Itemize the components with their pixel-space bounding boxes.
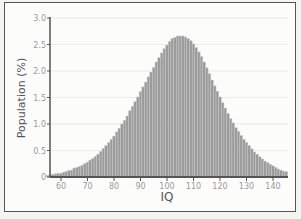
histogram-bar [174, 38, 177, 177]
histogram-bar [158, 58, 161, 177]
histogram-bar [187, 39, 190, 177]
histogram-bar [97, 154, 100, 177]
y-tick-label: 2.0 [33, 67, 46, 76]
histogram-bar [227, 113, 230, 177]
y-axis-label: Population (%) [15, 58, 28, 138]
histogram-bar [256, 154, 259, 177]
histogram-bar [115, 132, 118, 177]
histogram-bar [184, 37, 187, 177]
histogram-bar [237, 131, 240, 177]
histogram-bar [86, 162, 89, 177]
histogram-bar [232, 123, 235, 177]
histogram-bar [76, 167, 79, 177]
histogram-bars [46, 36, 287, 177]
histogram-bar [160, 53, 163, 177]
y-tick-label: 0.5 [33, 147, 46, 156]
histogram-bar [261, 159, 264, 177]
histogram-bar [78, 166, 81, 177]
histogram-bar [150, 72, 153, 177]
histogram-bar [102, 148, 105, 177]
histogram-bar [171, 39, 174, 177]
histogram-bar [70, 170, 73, 177]
histogram-bar [129, 111, 132, 177]
histogram-bar [258, 157, 261, 177]
histogram-bar [211, 80, 214, 177]
x-tick-label: 70 [82, 182, 92, 191]
histogram-bar [81, 165, 84, 177]
histogram-bar [107, 143, 110, 177]
histogram-bar [213, 86, 216, 177]
histogram-bar [118, 128, 121, 177]
histogram-bar [245, 143, 248, 177]
histogram-bar [94, 156, 97, 177]
y-tick-label: 2.5 [33, 41, 46, 50]
x-axis-ticks: 60708090100110120130140 [56, 177, 281, 191]
histogram-bar [73, 168, 76, 177]
histogram-bar [248, 146, 251, 177]
histogram-bar [280, 170, 283, 177]
histogram-bar [126, 116, 129, 177]
histogram-bar [253, 152, 256, 177]
histogram-bar [99, 152, 102, 177]
histogram-bar [274, 167, 277, 177]
x-tick-label: 60 [56, 182, 66, 191]
y-tick-label: 3.0 [33, 14, 46, 23]
x-tick-label: 110 [186, 182, 201, 191]
histogram-bar [139, 92, 142, 177]
y-tick-label: 1.0 [33, 120, 46, 129]
histogram-bar [192, 44, 195, 177]
histogram-bar [203, 62, 206, 177]
histogram-bar [168, 41, 171, 177]
histogram-bar [266, 163, 269, 177]
x-tick-label: 130 [239, 182, 254, 191]
x-tick-label: 140 [265, 182, 280, 191]
histogram-bar [182, 36, 185, 177]
histogram-bar [264, 161, 267, 177]
histogram-bar [137, 97, 140, 177]
histogram-bar [68, 171, 71, 177]
histogram-bar [121, 124, 124, 177]
histogram-bar [142, 87, 145, 177]
histogram-bar [272, 166, 275, 177]
histogram-bar [134, 102, 137, 177]
histogram-bar [195, 48, 198, 177]
histogram-bar [221, 103, 224, 177]
histogram-bar [166, 45, 169, 177]
histogram-bar [200, 57, 203, 177]
x-tick-label: 90 [135, 182, 145, 191]
histogram-bar [190, 41, 193, 177]
histogram-bar [240, 136, 243, 177]
histogram-bar [131, 107, 134, 177]
histogram-bar [216, 91, 219, 177]
histogram-bar [110, 139, 113, 177]
histogram-bar [89, 160, 92, 177]
y-tick-label: 0 [41, 173, 46, 182]
histogram-bar [224, 108, 227, 177]
histogram-bar [243, 139, 246, 177]
histogram-bar [229, 119, 232, 177]
x-axis-label: IQ [161, 190, 174, 204]
histogram-bar [250, 149, 253, 177]
x-tick-label: 120 [212, 182, 227, 191]
histogram-bar [235, 128, 238, 177]
histogram-bar [197, 52, 200, 177]
histogram-bar [163, 49, 166, 177]
histogram-bar [113, 136, 116, 177]
histogram-bar [269, 164, 272, 177]
histogram-bar [176, 36, 179, 177]
histogram-bar [155, 62, 158, 177]
histogram-bar [205, 68, 208, 177]
x-tick-label: 80 [109, 182, 119, 191]
histogram-bar [144, 82, 147, 177]
histogram-bar [147, 77, 150, 177]
histogram-bar [277, 169, 280, 177]
histogram-bar [208, 74, 211, 177]
histogram-bar [123, 120, 126, 177]
histogram-bar [91, 158, 94, 177]
histogram-bar [105, 146, 108, 177]
y-tick-label: 1.5 [33, 94, 46, 103]
histogram-bar [179, 36, 182, 177]
histogram-bar [152, 67, 155, 177]
histogram-bar [219, 97, 222, 177]
histogram-bar [84, 164, 87, 177]
